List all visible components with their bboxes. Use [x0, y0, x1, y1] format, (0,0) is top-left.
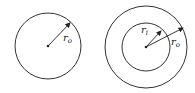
- radius-arrow-ri: [146, 31, 161, 47]
- diagram-canvas: ro ri ro: [0, 0, 195, 93]
- solid-circle-figure: ro: [15, 13, 81, 79]
- label-r-outer: ro: [63, 32, 72, 45]
- label-r-inner: ri: [141, 24, 148, 37]
- label-r-outer: ro: [171, 36, 180, 49]
- annulus-figure: ri ro: [105, 6, 187, 88]
